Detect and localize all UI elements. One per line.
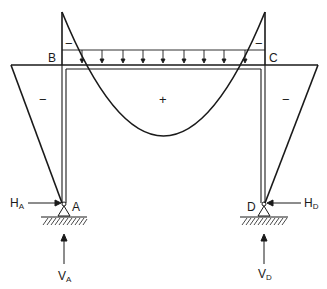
reaction-label-VD: VD (258, 267, 272, 282)
sign-right-column: − (282, 92, 290, 107)
node-label-C: C (269, 51, 278, 65)
reaction-arrows (28, 200, 301, 264)
sign-left-column: − (39, 92, 47, 107)
sign-beam-span: + (159, 92, 167, 107)
sign-right-corner: − (255, 36, 263, 51)
distributed-load (62, 50, 265, 63)
reaction-label-VA: VA (58, 269, 72, 284)
ground-hatch-D-icon (242, 218, 287, 225)
node-label-D: D (247, 200, 256, 214)
left-column-moment (11, 65, 62, 203)
frame (62, 65, 265, 203)
reaction-label-HA: HA (10, 196, 25, 211)
labels: B C A D HA HD VA VD − − + − − (10, 36, 319, 284)
right-column-moment (265, 65, 318, 203)
support-A (41, 202, 87, 225)
portal-frame-diagram: B C A D HA HD VA VD − − + − − (0, 0, 327, 289)
bending-moment-diagram (11, 12, 318, 203)
load-arrows (80, 50, 247, 63)
support-triangle-A-icon (58, 206, 70, 216)
support-triangle-D-icon (258, 206, 270, 216)
beam-moment-parabola (62, 12, 265, 136)
sign-left-corner: − (65, 36, 73, 51)
reaction-label-HD: HD (304, 196, 319, 211)
node-label-A: A (72, 200, 80, 214)
ground-hatch-A-icon (43, 218, 87, 225)
node-label-B: B (48, 51, 56, 65)
